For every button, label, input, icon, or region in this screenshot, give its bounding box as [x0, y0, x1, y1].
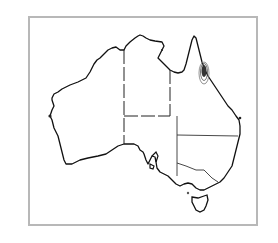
border-qld-nsw	[177, 135, 238, 136]
coastal-markers	[48, 49, 241, 119]
state-borders-solid	[177, 116, 238, 182]
mainland-coastline	[50, 35, 240, 190]
border-nsw-vic	[177, 163, 218, 182]
state-borders	[124, 50, 170, 144]
tasmania	[187, 192, 208, 212]
highlight-contour	[199, 62, 209, 84]
australia-map	[0, 0, 278, 243]
